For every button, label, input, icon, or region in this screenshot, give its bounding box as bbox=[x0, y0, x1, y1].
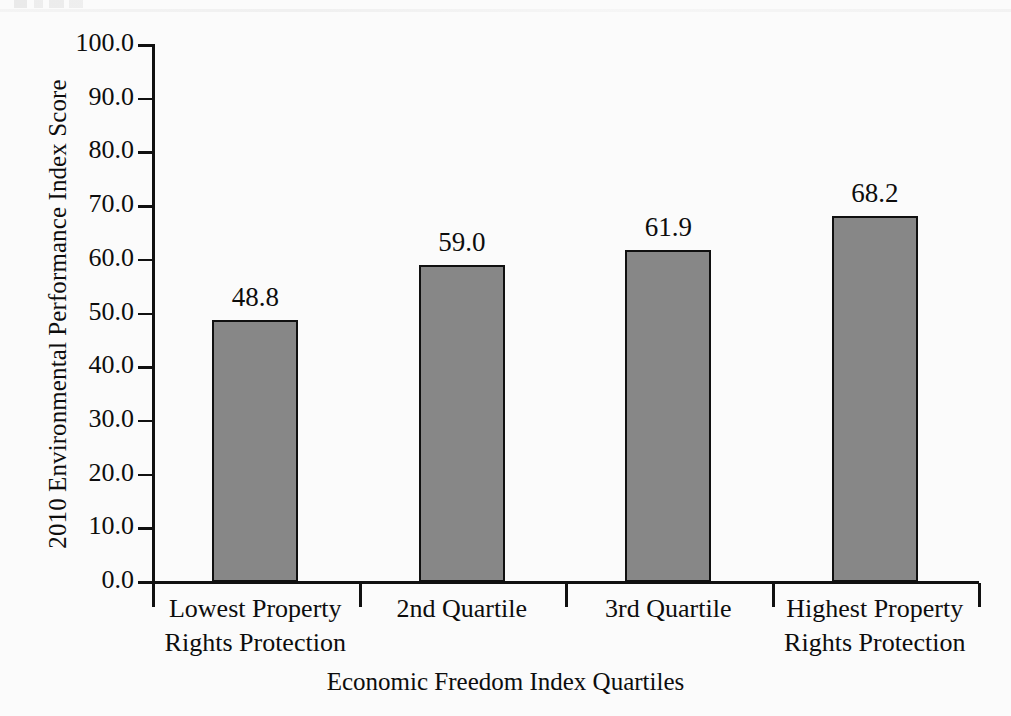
y-axis-tick-label: 30.0 bbox=[89, 404, 135, 434]
y-axis-title: 2010 Environmental Performance Index Sco… bbox=[44, 34, 72, 594]
category-label-line: Lowest Property bbox=[152, 592, 359, 626]
x-axis-category-label: Highest PropertyRights Protection bbox=[772, 592, 979, 660]
x-axis-category-label: 3rd Quartile bbox=[565, 592, 772, 626]
y-axis-tick-label: 60.0 bbox=[89, 243, 135, 273]
y-axis-tick-mark bbox=[138, 259, 152, 262]
y-axis-tick-label: 0.0 bbox=[102, 565, 135, 595]
bar bbox=[212, 320, 298, 582]
bar bbox=[625, 250, 711, 582]
y-axis-tick-mark bbox=[138, 581, 152, 584]
y-axis-tick-label: 50.0 bbox=[89, 297, 135, 327]
x-axis-title: Economic Freedom Index Quartiles bbox=[0, 668, 1011, 696]
y-axis-tick-mark bbox=[138, 527, 152, 530]
category-label-line: Highest Property bbox=[772, 592, 979, 626]
y-axis-tick-mark bbox=[138, 44, 152, 47]
y-axis-tick-label: 100.0 bbox=[76, 28, 135, 58]
category-separator-tick bbox=[978, 583, 981, 607]
y-axis-tick-mark bbox=[138, 474, 152, 477]
category-label-line: Rights Protection bbox=[152, 626, 359, 660]
bar-value-label: 68.2 bbox=[795, 178, 955, 209]
y-axis-tick-mark bbox=[138, 366, 152, 369]
bar-value-label: 61.9 bbox=[588, 212, 748, 243]
y-axis-tick-label: 70.0 bbox=[89, 189, 135, 219]
bar-value-label: 59.0 bbox=[382, 227, 542, 258]
y-axis-tick-mark bbox=[138, 205, 152, 208]
y-axis-tick-label: 20.0 bbox=[89, 458, 135, 488]
y-axis-tick-mark bbox=[138, 98, 152, 101]
x-axis-category-label: 2nd Quartile bbox=[359, 592, 566, 626]
category-label-line: 2nd Quartile bbox=[359, 592, 566, 626]
category-label-line: 3rd Quartile bbox=[565, 592, 772, 626]
category-label-line: Rights Protection bbox=[772, 626, 979, 660]
y-axis-tick-mark bbox=[138, 151, 152, 154]
scan-bleed-artifact bbox=[14, 0, 98, 8]
x-axis-category-label: Lowest PropertyRights Protection bbox=[152, 592, 359, 660]
bar bbox=[832, 216, 918, 582]
y-axis-tick-label: 10.0 bbox=[89, 511, 135, 541]
y-axis-tick-mark bbox=[138, 313, 152, 316]
scan-edge-line bbox=[0, 9, 1011, 12]
y-axis-tick-label: 90.0 bbox=[89, 82, 135, 112]
y-axis-tick-label: 40.0 bbox=[89, 350, 135, 380]
bar-value-label: 48.8 bbox=[175, 282, 335, 313]
bar bbox=[419, 265, 505, 582]
y-axis-tick-label: 80.0 bbox=[89, 135, 135, 165]
bar-chart-figure: 2010 Environmental Performance Index Sco… bbox=[0, 0, 1011, 716]
y-axis-tick-mark bbox=[138, 420, 152, 423]
